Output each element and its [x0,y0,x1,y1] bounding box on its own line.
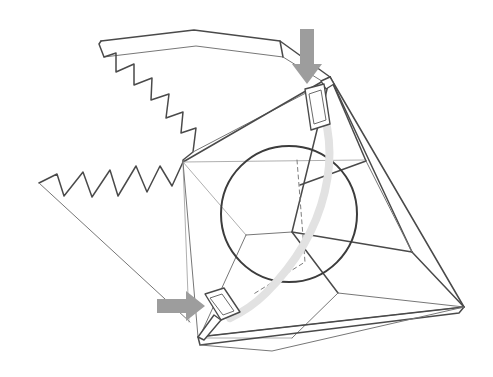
background [0,0,493,377]
figure-canvas [0,0,493,377]
technical-line-drawing [0,0,493,377]
